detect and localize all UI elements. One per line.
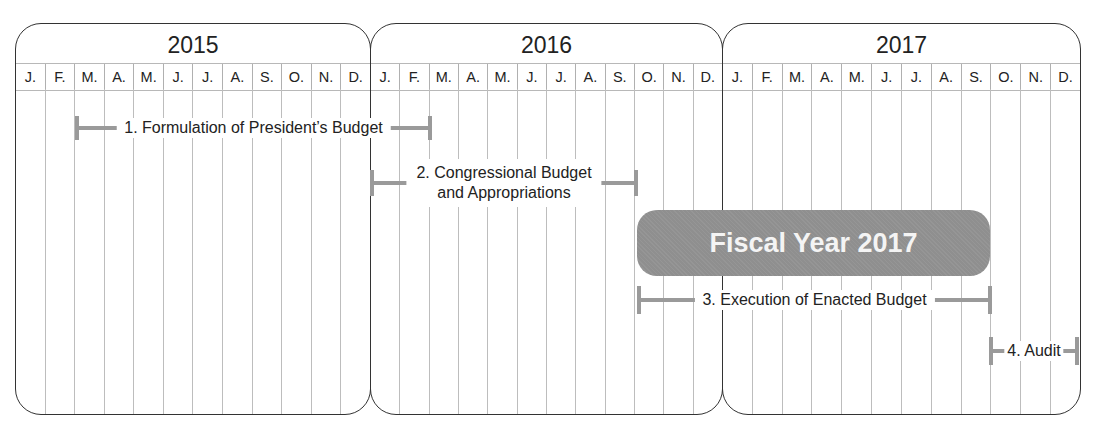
month-label: J. — [723, 64, 752, 90]
month-label: M. — [74, 64, 104, 90]
month-label: J. — [901, 64, 931, 90]
phase-bar-formulation: 1. Formulation of President’s Budget — [75, 116, 432, 140]
month-label: A. — [458, 64, 487, 90]
month-label: S. — [605, 64, 634, 90]
month-label: M. — [841, 64, 871, 90]
phase-bar-execution: 3. Execution of Enacted Budget — [637, 286, 992, 314]
month-label: J. — [546, 64, 575, 90]
month-label: D. — [340, 64, 370, 90]
month-header-row: J. F. M. A. M. J. J. A. S. O. N. D. — [371, 63, 722, 91]
month-label: F. — [399, 64, 428, 90]
month-label: J. — [371, 64, 399, 90]
month-label: A. — [811, 64, 841, 90]
month-label: O. — [990, 64, 1020, 90]
month-label: M. — [782, 64, 812, 90]
month-label: A. — [222, 64, 252, 90]
month-label: D. — [693, 64, 722, 90]
year-title: 2015 — [16, 24, 370, 63]
bar-end-cap — [1075, 337, 1079, 365]
month-label: J. — [163, 64, 193, 90]
month-label: O. — [281, 64, 311, 90]
month-label: J. — [192, 64, 222, 90]
month-label: N. — [663, 64, 692, 90]
bar-end-cap — [428, 116, 432, 140]
month-label: A. — [104, 64, 134, 90]
year-panel-2015: 2015 J. F. M. A. M. J. J. A. S. O. N. D. — [15, 23, 371, 415]
month-label: J. — [16, 64, 45, 90]
month-label: J. — [871, 64, 901, 90]
month-label: M. — [429, 64, 458, 90]
month-header-row: J. F. M. A. M. J. J. A. S. O. N. D. — [16, 63, 370, 91]
month-label: F. — [752, 64, 782, 90]
month-label: A. — [931, 64, 961, 90]
month-header-row: J. F. M. A. M. J. J. A. S. O. N. D. — [723, 63, 1080, 91]
month-label: J. — [517, 64, 546, 90]
month-label: S. — [961, 64, 991, 90]
year-title: 2017 — [723, 24, 1080, 63]
phase-label-line-1: 2. Congressional Budget — [416, 163, 591, 183]
phase-bar-audit: 4. Audit — [989, 337, 1079, 365]
month-label: N. — [311, 64, 341, 90]
phase-label: 4. Audit — [1004, 341, 1063, 361]
month-label: F. — [45, 64, 75, 90]
year-title: 2016 — [371, 24, 722, 63]
month-label: S. — [252, 64, 282, 90]
bar-end-cap — [988, 286, 992, 314]
fiscal-year-banner: Fiscal Year 2017 — [637, 210, 990, 276]
month-label: M. — [133, 64, 163, 90]
month-label: N. — [1020, 64, 1050, 90]
month-label: O. — [634, 64, 663, 90]
phase-label-line-2: and Appropriations — [416, 183, 591, 203]
month-label: M. — [487, 64, 516, 90]
month-label: D. — [1050, 64, 1080, 90]
phase-label: 3. Execution of Enacted Budget — [694, 290, 934, 310]
phase-label: 2. Congressional Budget and Appropriatio… — [406, 159, 601, 207]
phase-bar-congressional: 2. Congressional Budget and Appropriatio… — [370, 170, 638, 196]
phase-label: 1. Formulation of President’s Budget — [116, 118, 391, 138]
bar-end-cap — [634, 170, 638, 196]
month-label: A. — [575, 64, 604, 90]
